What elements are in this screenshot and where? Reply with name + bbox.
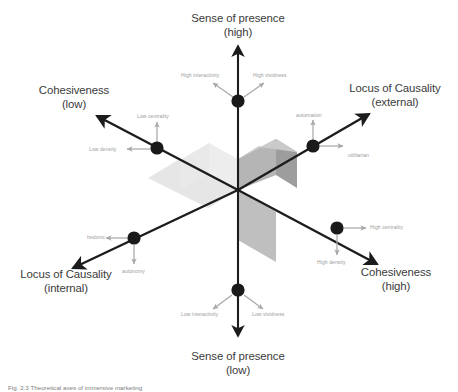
axis-label-cohesiveness-high: Cohesiveness (high) xyxy=(336,266,456,293)
axis-locus-internal xyxy=(73,190,238,268)
axis-label-cohesiveness-high-level: (high) xyxy=(336,280,456,294)
sublabel-low-interactivity: Low interactivity xyxy=(181,311,218,317)
sublabel-autonomy: autonomy xyxy=(122,268,145,274)
node-lower-left[interactable] xyxy=(127,231,140,244)
figure-canvas: Sense of presence (high) Sense of presen… xyxy=(0,0,458,392)
arrow-high-interactivity xyxy=(213,83,233,97)
arrow-high-vividness xyxy=(244,83,264,97)
figure-caption: Fig. 2.3 Theoretical axes of immersive m… xyxy=(8,384,142,391)
axis-label-locus-internal-level: (internal) xyxy=(3,282,129,296)
axis-label-presence-high: Sense of presence (high) xyxy=(157,12,319,39)
sublabel-automation: automation xyxy=(296,112,322,118)
sublabel-low-density: Low density xyxy=(89,146,116,152)
sublabel-utilitarian: utilitarian xyxy=(348,152,369,158)
node-upper-left[interactable] xyxy=(150,141,163,154)
sublabel-high-interactivity: High interactivity xyxy=(181,72,219,78)
axis-label-locus-external-level: (external) xyxy=(334,96,456,110)
isometric-planes xyxy=(148,139,297,262)
axis-label-locus-external: Locus of Causality (external) xyxy=(334,82,456,109)
axis-label-locus-internal-name: Locus of Causality xyxy=(20,268,111,280)
node-upper-right[interactable] xyxy=(306,139,319,152)
axes-diagram xyxy=(0,0,458,392)
sublabel-high-centrality: High centrality xyxy=(370,224,403,230)
node-lower-right[interactable] xyxy=(330,221,343,234)
sublabel-low-centrality: Low centrality xyxy=(137,113,169,119)
axis-label-cohesiveness-low-name: Cohesiveness xyxy=(39,84,109,96)
axis-label-presence-low-name: Sense of presence xyxy=(191,350,284,362)
axis-label-cohesiveness-low-level: (low) xyxy=(6,98,142,112)
axis-label-locus-external-name: Locus of Causality xyxy=(349,82,440,94)
axis-label-presence-low: Sense of presence (low) xyxy=(157,350,319,377)
axis-label-cohesiveness-low: Cohesiveness (low) xyxy=(6,84,142,111)
sublabel-high-density: High density xyxy=(317,259,346,265)
node-bottom[interactable] xyxy=(231,283,244,296)
node-dots xyxy=(127,94,343,296)
sublabel-hedonic: hedonic xyxy=(87,234,105,240)
axis-label-presence-low-level: (low) xyxy=(157,364,319,378)
sublabel-low-vividness: Low vividness xyxy=(252,311,284,317)
arrow-low-interactivity xyxy=(213,295,232,309)
axis-label-cohesiveness-high-name: Cohesiveness xyxy=(361,266,431,278)
axis-label-presence-high-name: Sense of presence xyxy=(191,12,284,24)
axis-label-locus-internal: Locus of Causality (internal) xyxy=(3,268,129,295)
node-top[interactable] xyxy=(231,94,244,107)
arrow-low-vividness xyxy=(244,295,263,309)
axis-label-presence-high-level: (high) xyxy=(157,26,319,40)
sublabel-high-vividness: High vividness xyxy=(253,72,287,78)
